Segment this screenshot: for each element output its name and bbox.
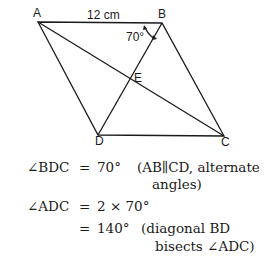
side-length-label: 12 cm bbox=[87, 8, 120, 22]
vertex-e-label: E bbox=[134, 71, 142, 85]
solution-line3-reason-cont: bisects ∠ADC) bbox=[155, 238, 255, 254]
vertex-a-label: A bbox=[33, 6, 41, 20]
solution-line1-reason-cont: angles) bbox=[152, 176, 202, 192]
solution-line1-val: 70° bbox=[97, 159, 121, 175]
solution-line1-lhs: ∠BDC bbox=[27, 159, 69, 175]
solution-line1-eq: = bbox=[79, 159, 90, 175]
solution-line2-val: 2 × 70° bbox=[97, 198, 149, 214]
vertex-c-label: C bbox=[221, 135, 230, 149]
parallelogram-diagram bbox=[0, 0, 266, 140]
solution-line3-reason: (diagonal BD bbox=[141, 220, 230, 236]
angle-label: 70° bbox=[126, 30, 144, 44]
solution-line1-reason: (AB∥CD, alternate bbox=[137, 159, 260, 175]
solution-line2-eq: = bbox=[79, 198, 90, 214]
solution-line3-eq: = bbox=[79, 220, 90, 236]
vertex-b-label: B bbox=[158, 7, 166, 21]
vertex-d-label: D bbox=[95, 134, 104, 148]
solution-line3-val: 140° bbox=[97, 220, 130, 236]
solution-line2-lhs: ∠ADC bbox=[27, 198, 69, 214]
